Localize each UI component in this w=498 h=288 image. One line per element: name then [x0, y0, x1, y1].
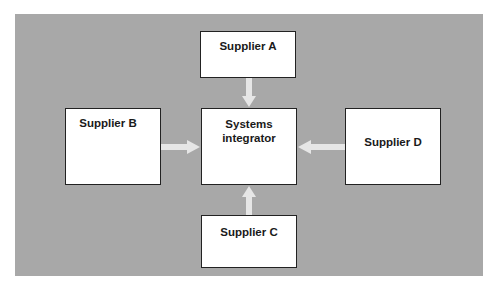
supplier-d-box: Supplier D	[345, 108, 441, 185]
supplier-b-box: Supplier B	[65, 108, 161, 185]
supplier-a-label: Supplier A	[201, 40, 295, 52]
supplier-d-label: Supplier D	[346, 136, 440, 148]
systems-integrator-box: Systems integrator	[201, 108, 297, 185]
diagram-panel: Supplier A Supplier B Systems integrator…	[15, 14, 483, 276]
supplier-a-box: Supplier A	[200, 31, 296, 78]
supplier-c-box: Supplier C	[201, 215, 297, 268]
arrow-up-icon	[241, 185, 257, 215]
integrator-label-line1: Systems	[202, 118, 296, 130]
supplier-c-label: Supplier C	[202, 226, 296, 238]
arrow-left-icon	[297, 139, 345, 155]
supplier-b-label: Supplier B	[56, 117, 160, 129]
integrator-label-line2: integrator	[202, 132, 296, 144]
arrow-down-icon	[241, 78, 257, 108]
arrow-right-icon	[161, 139, 201, 155]
